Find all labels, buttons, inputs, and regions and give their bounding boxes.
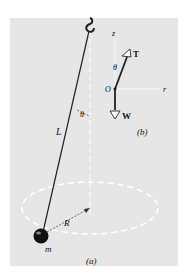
- angle-label-b: θ: [113, 63, 117, 72]
- radius-arrowhead: [84, 208, 90, 213]
- weight-label: W: [122, 111, 131, 121]
- tension-arrowhead: [122, 49, 131, 57]
- tension-vector: [115, 57, 127, 89]
- radius-label: R: [63, 218, 70, 228]
- length-label: L: [55, 126, 62, 137]
- conical-pendulum-diagram: θ L R m (a) z r T θ O W (b): [0, 0, 191, 276]
- mass-label: m: [45, 244, 52, 254]
- string: [43, 31, 89, 232]
- caption-a: (a): [86, 256, 97, 266]
- origin-label: O: [105, 85, 111, 94]
- tension-label: T: [133, 49, 139, 59]
- weight-arrowhead: [110, 111, 120, 119]
- r-axis-label: r: [163, 85, 167, 94]
- ball: [34, 229, 49, 244]
- z-axis-label: z: [111, 29, 116, 38]
- hook-icon: [86, 18, 94, 32]
- caption-b: (b): [137, 127, 148, 137]
- angle-label-a: θ: [80, 110, 84, 119]
